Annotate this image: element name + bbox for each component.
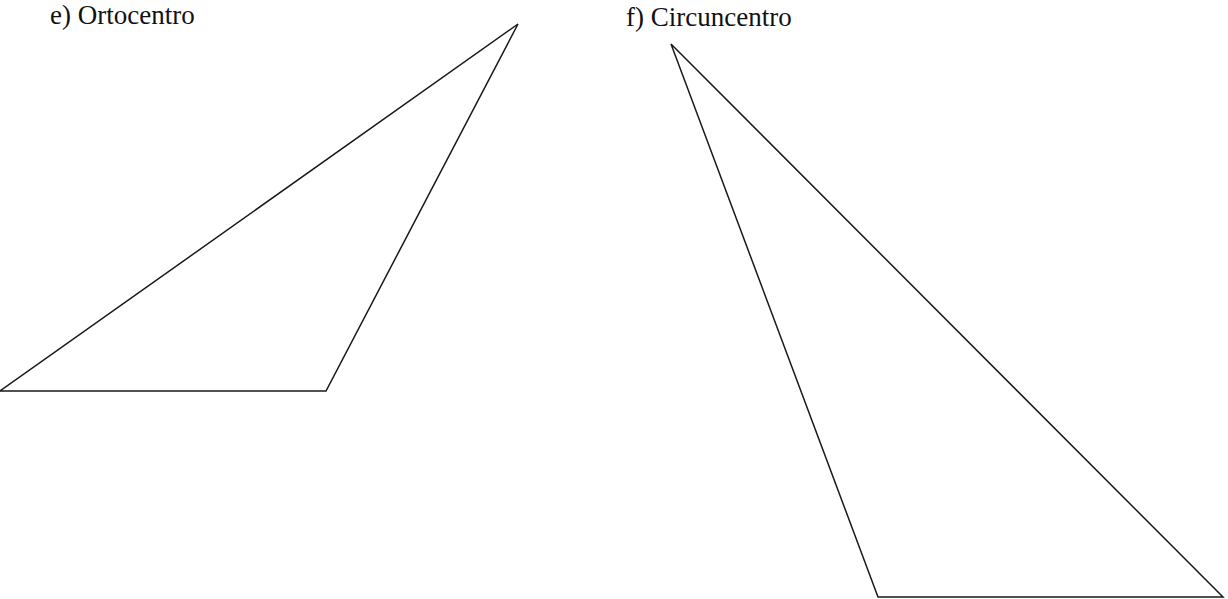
triangle-orthocenter bbox=[0, 24, 518, 391]
drawing-canvas bbox=[0, 0, 1228, 599]
triangle-circumcenter bbox=[671, 44, 1223, 597]
